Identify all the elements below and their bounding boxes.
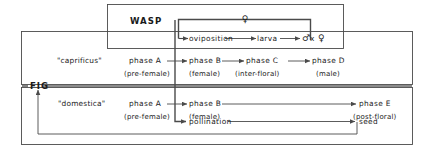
caprificus-phase-b-sub: (female): [189, 71, 220, 78]
fig-wasp-life-cycle-diagram: WASP FIG ♀ oviposition larva ♂ x ♀ "capr…: [0, 0, 434, 157]
mating-male-symbol: ♂: [302, 34, 310, 43]
caprificus-name: "caprificus": [57, 57, 102, 64]
seed-label: seed: [359, 118, 378, 125]
pollination-trunk: [175, 20, 186, 122]
seed-feedback-loop: [38, 90, 357, 134]
caprificus-phase-c-sub: (inter-floral): [235, 71, 279, 78]
oviposition-label: oviposition: [189, 35, 233, 42]
domestica-phase-b-label: phase B: [189, 100, 221, 107]
domestica-name: "domestica": [58, 100, 105, 107]
caprificus-phase-c-label: phase C: [246, 57, 278, 64]
caprificus-phase-d-label: phase D: [312, 57, 345, 64]
fig-title: FIG: [30, 82, 49, 91]
caprificus-phase-d-sub: (male): [316, 71, 340, 78]
caprificus-phase-a-label: phase A: [129, 57, 161, 64]
wasp-title: WASP: [130, 17, 162, 26]
domestica-phase-e-label: phase E: [359, 100, 391, 107]
wasp-female-top-symbol: ♀: [242, 15, 249, 24]
larva-label: larva: [257, 35, 277, 42]
pollination-label: pollination: [189, 118, 232, 125]
caprificus-phase-a-sub: (pre-female): [124, 71, 170, 78]
caprificus-phase-b-label: phase B: [189, 57, 221, 64]
mating-cross-label: x: [310, 35, 315, 42]
mating-female-symbol: ♀: [318, 34, 325, 43]
diagram-lines: [0, 0, 434, 157]
domestica-phase-a-sub: (pre-female): [124, 114, 170, 121]
domestica-phase-a-label: phase A: [129, 100, 161, 107]
